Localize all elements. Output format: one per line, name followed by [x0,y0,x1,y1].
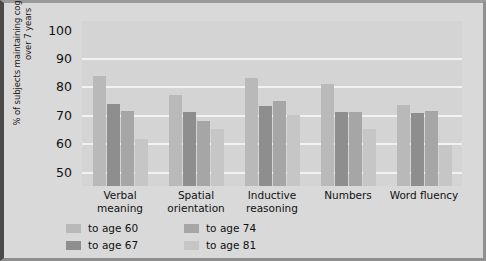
legend-swatch [184,241,199,250]
legend-item: to age 74 [184,222,302,234]
x-axis-label-line: meaning [82,202,158,215]
x-axis-label-line: orientation [158,202,234,215]
chart-figure: % of subjects maintaining cognitive abil… [0,0,486,261]
bar [121,111,134,186]
plot-area: 5060708090100 [82,21,462,186]
bar-group [310,21,386,186]
legend-swatch [66,241,81,250]
x-axis-label-line: Numbers [310,189,386,202]
x-axis-label: Spatialorientation [158,189,234,214]
bar [273,101,286,186]
bar [259,106,272,186]
bar [335,112,348,186]
bar [439,145,452,186]
y-axis-title: % of subjects maintaining cognitive abil… [12,0,38,129]
x-axis-label: Word fluency [386,189,462,214]
bar [107,104,120,187]
bar [169,95,182,186]
legend-item: to age 67 [66,239,184,251]
legend-label: to age 81 [206,239,256,251]
y-axis-tick-label: 50 [38,164,72,179]
bar [287,115,300,186]
x-axis-label-line: Word fluency [386,189,462,202]
bar [245,78,258,186]
x-axis-label: Inductivereasoning [234,189,310,214]
bar [321,84,334,186]
bar [411,113,424,186]
bar [183,112,196,186]
bar [93,76,106,186]
bar [211,129,224,186]
bar [349,112,362,186]
bar-group [234,21,310,186]
x-axis-label-line: reasoning [234,202,310,215]
y-axis-tick-label: 90 [38,50,72,65]
bar [397,105,410,186]
y-axis-tick-label: 100 [38,22,72,37]
chart-legend: to age 60to age 74to age 67to age 81 [66,222,316,251]
y-axis-tick-label: 60 [38,136,72,151]
legend-swatch [184,224,199,233]
bar-group [82,21,158,186]
y-axis-tick-label: 80 [38,79,72,94]
bar [197,121,210,186]
x-axis-label: Numbers [310,189,386,214]
bar-group [158,21,234,186]
y-axis-tick-label: 70 [38,107,72,122]
bar [363,129,376,186]
legend-swatch [66,224,81,233]
bar [135,139,148,186]
x-axis-label: Verbalmeaning [82,189,158,214]
legend-label: to age 74 [206,222,256,234]
bar [425,111,438,186]
legend-label: to age 60 [88,222,138,234]
bar-group [386,21,462,186]
bar-groups [82,21,462,186]
x-axis-label-line: Inductive [234,189,310,202]
legend-item: to age 60 [66,222,184,234]
legend-label: to age 67 [88,239,138,251]
x-axis-label-line: Spatial [158,189,234,202]
x-axis-label-line: Verbal [82,189,158,202]
x-axis-labels: VerbalmeaningSpatialorientationInductive… [82,189,462,214]
legend-item: to age 81 [184,239,302,251]
